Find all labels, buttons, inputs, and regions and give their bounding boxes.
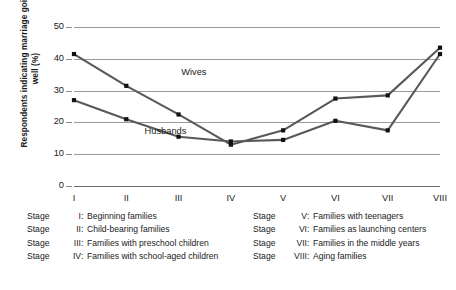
- legend-stage-word: Stage: [27, 250, 57, 263]
- series-group: [0, 0, 456, 205]
- series-annotation-wives: Wives: [181, 67, 206, 77]
- data-point-husbands-I: [72, 98, 76, 102]
- legend-description: Families as launching centers: [311, 223, 426, 236]
- series-line-husbands: [74, 54, 440, 141]
- legend-numeral: III: [57, 237, 81, 250]
- data-point-husbands-VI: [333, 119, 337, 123]
- legend-numeral: I: [57, 210, 81, 223]
- legend-row-viii: StageVIII:Aging families: [253, 250, 426, 263]
- legend-row-vii: StageVII:Families in the middle years: [253, 237, 426, 250]
- legend-column-right: StageV:Families with teenagersStageVI:Fa…: [253, 210, 426, 264]
- x-tick-label-IV: IV: [211, 193, 251, 203]
- x-tick-label-VI: VI: [315, 193, 355, 203]
- data-point-wives-I: [72, 52, 76, 56]
- legend-stage-word: Stage: [253, 250, 283, 263]
- legend-stage-word: Stage: [253, 223, 283, 236]
- legend-stage-word: Stage: [27, 223, 57, 236]
- legend-description: Aging families: [311, 250, 367, 263]
- data-point-wives-VIII: [438, 46, 442, 50]
- data-point-wives-V: [281, 128, 285, 132]
- x-tick-label-V: V: [263, 193, 303, 203]
- x-tick-label-VII: VII: [368, 193, 408, 203]
- data-point-wives-II: [124, 84, 128, 88]
- legend-row-vi: StageVI:Families as launching centers: [253, 223, 426, 236]
- legend-description: Families with school-aged children: [85, 250, 218, 263]
- legend-stage-word: Stage: [27, 237, 57, 250]
- legend-numeral: V: [283, 210, 307, 223]
- legend-numeral: VII: [283, 237, 307, 250]
- data-point-husbands-II: [124, 117, 128, 121]
- legend-numeral: VI: [283, 223, 307, 236]
- data-point-husbands-VIII: [438, 52, 442, 56]
- legend-description: Families in the middle years: [311, 237, 420, 250]
- legend-row-v: StageV:Families with teenagers: [253, 210, 426, 223]
- legend-description: Families with teenagers: [311, 210, 403, 223]
- legend-numeral: VIII: [283, 250, 307, 263]
- data-point-husbands-V: [281, 138, 285, 142]
- data-point-wives-VII: [386, 93, 390, 97]
- x-tick-label-III: III: [159, 193, 199, 203]
- legend-column-left: StageI:Beginning familiesStageII:Child-b…: [27, 210, 218, 264]
- plot-area: Respondents indicating marriage going we…: [0, 0, 456, 205]
- marriage-satisfaction-line-chart: Respondents indicating marriage going we…: [0, 0, 456, 290]
- data-point-husbands-VII: [386, 128, 390, 132]
- x-tick-label-II: II: [106, 193, 146, 203]
- legend-row-iv: StageIV:Families with school-aged childr…: [27, 250, 218, 263]
- legend-description: Child-bearing families: [85, 223, 170, 236]
- legend-stage-word: Stage: [27, 210, 57, 223]
- legend-stage-word: Stage: [253, 237, 283, 250]
- legend-row-i: StageI:Beginning families: [27, 210, 218, 223]
- stage-legend: StageI:Beginning familiesStageII:Child-b…: [0, 210, 456, 290]
- legend-stage-word: Stage: [253, 210, 283, 223]
- series-annotation-husbands: Husbands: [145, 126, 187, 136]
- legend-description: Families with preschool children: [85, 237, 209, 250]
- legend-description: Beginning families: [85, 210, 157, 223]
- data-point-wives-III: [176, 112, 180, 116]
- legend-row-iii: StageIII:Families with preschool childre…: [27, 237, 218, 250]
- x-tick-label-VIII: VIII: [420, 193, 456, 203]
- x-tick-label-I: I: [54, 193, 94, 203]
- legend-numeral: II: [57, 223, 81, 236]
- data-point-wives-VI: [333, 96, 337, 100]
- legend-numeral: IV: [57, 250, 81, 263]
- data-point-husbands-IV: [229, 139, 233, 143]
- legend-row-ii: StageII:Child-bearing families: [27, 223, 218, 236]
